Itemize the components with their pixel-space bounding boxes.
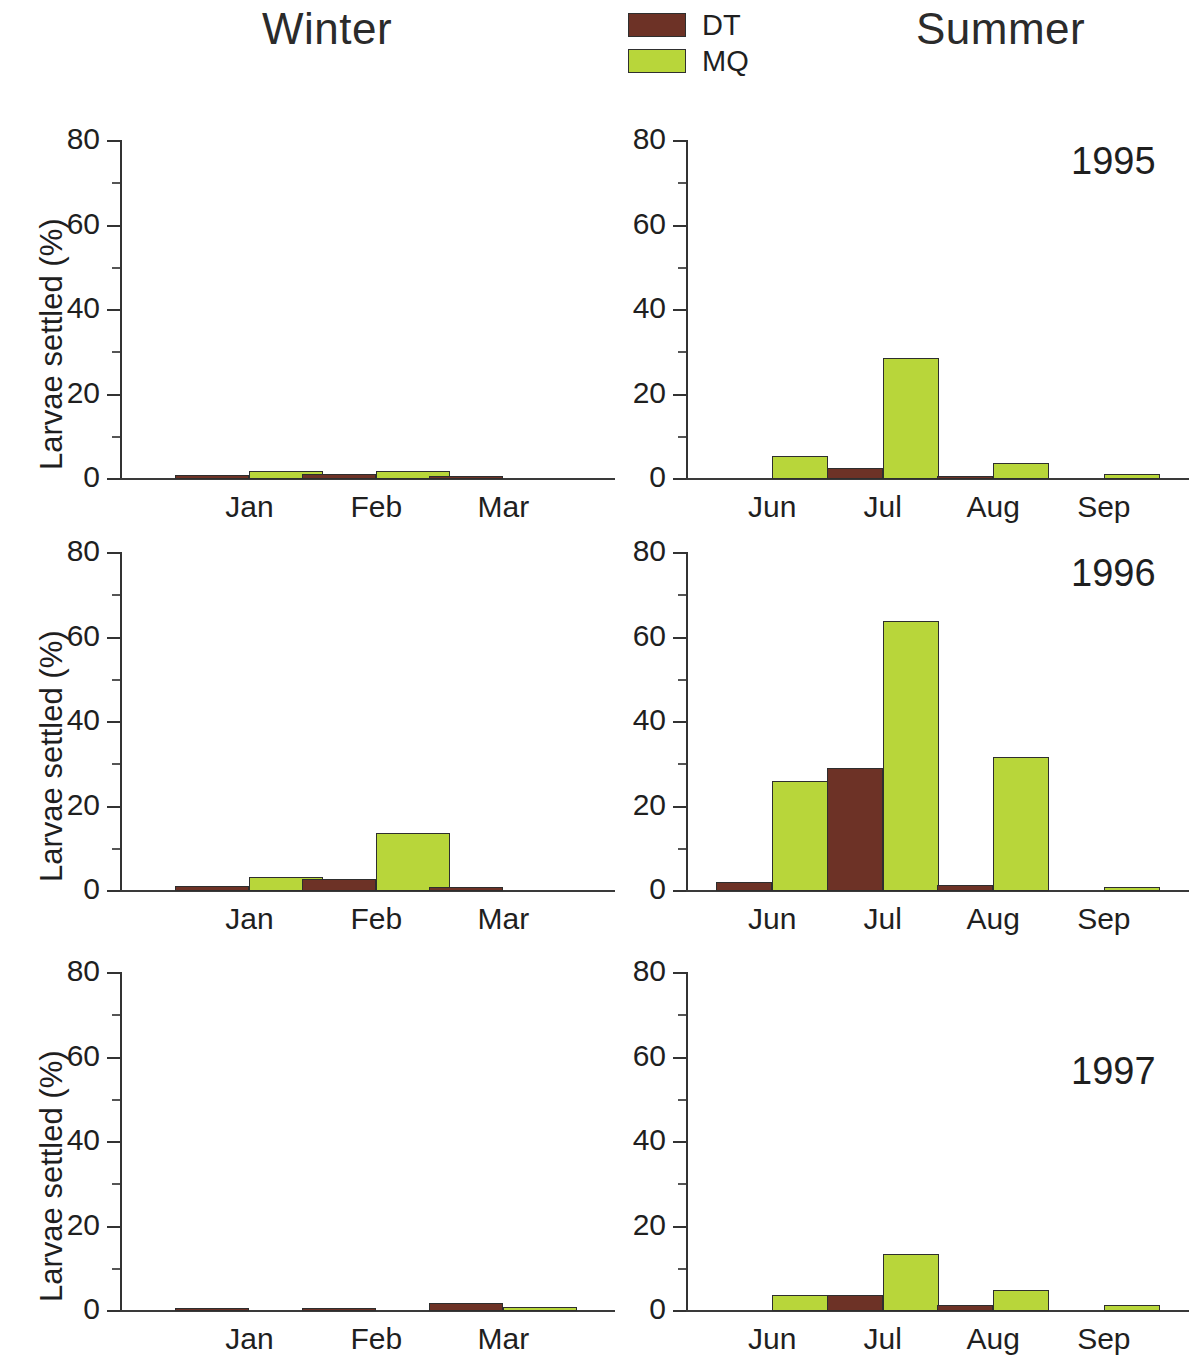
y-tick-minor-50 bbox=[112, 1099, 120, 1101]
panel-winter-1995: 020406080Larvae settled (%)JanFebMar bbox=[0, 100, 620, 512]
bar-dt-jan-1995 bbox=[175, 475, 249, 479]
y-tick-80 bbox=[107, 140, 120, 142]
y-tick-0 bbox=[107, 478, 120, 480]
bar-mq-aug-1997 bbox=[993, 1290, 1049, 1311]
y-tick-label-0: 0 bbox=[606, 1294, 666, 1324]
y-tick-minor-10 bbox=[678, 1268, 686, 1270]
bar-dt-mar-1997 bbox=[429, 1303, 503, 1311]
bar-dt-jun-1996 bbox=[716, 882, 772, 891]
bar-mq-sep-1997 bbox=[1104, 1305, 1160, 1311]
y-tick-80 bbox=[673, 140, 686, 142]
legend-item-dt: DT bbox=[628, 10, 798, 40]
bar-dt-jul-1996 bbox=[827, 768, 883, 891]
y-tick-0 bbox=[673, 1310, 686, 1312]
bar-dt-jan-1997 bbox=[175, 1308, 249, 1311]
y-tick-label-0: 0 bbox=[606, 462, 666, 492]
bar-mq-sep-1995 bbox=[1104, 474, 1160, 479]
bar-mq-aug-1996 bbox=[993, 757, 1049, 891]
figure-header: Winter Summer DT MQ bbox=[0, 0, 1189, 100]
y-tick-minor-30 bbox=[678, 1183, 686, 1185]
bar-dt-jan-1996 bbox=[175, 886, 249, 891]
y-tick-minor-70 bbox=[678, 182, 686, 184]
panel-summer-1997: 0204060801997JunJulAugSep bbox=[620, 912, 1189, 1366]
bar-mq-mar-1997 bbox=[503, 1307, 577, 1311]
bar-mq-jun-1995 bbox=[772, 456, 828, 479]
y-tick-40 bbox=[107, 721, 120, 723]
legend-swatch-dt bbox=[628, 13, 686, 37]
legend-label-mq: MQ bbox=[702, 47, 749, 76]
y-tick-minor-30 bbox=[678, 763, 686, 765]
bar-dt-jul-1997 bbox=[827, 1295, 883, 1311]
y-tick-0 bbox=[107, 1310, 120, 1312]
y-axis-label: Larvae settled (%) bbox=[34, 630, 70, 882]
legend-item-mq: MQ bbox=[628, 46, 798, 76]
legend-swatch-mq bbox=[628, 49, 686, 73]
y-tick-60 bbox=[673, 225, 686, 227]
y-tick-label-60: 60 bbox=[606, 1041, 666, 1071]
y-axis-label: Larvae settled (%) bbox=[34, 218, 70, 470]
y-tick-minor-30 bbox=[112, 1183, 120, 1185]
bar-dt-aug-1996 bbox=[937, 885, 993, 891]
y-tick-minor-70 bbox=[678, 594, 686, 596]
y-tick-0 bbox=[673, 478, 686, 480]
panel-winter-1997: 020406080Larvae settled (%)JanFebMar bbox=[0, 912, 620, 1366]
bar-dt-mar-1995 bbox=[429, 476, 503, 479]
y-tick-60 bbox=[107, 1057, 120, 1059]
y-tick-label-0: 0 bbox=[606, 874, 666, 904]
legend-label-dt: DT bbox=[702, 11, 741, 40]
bar-dt-mar-1996 bbox=[429, 887, 503, 891]
y-tick-label-60: 60 bbox=[606, 621, 666, 651]
y-tick-label-20: 20 bbox=[606, 790, 666, 820]
y-tick-80 bbox=[673, 552, 686, 554]
bar-dt-feb-1995 bbox=[302, 474, 376, 479]
y-tick-label-80: 80 bbox=[606, 124, 666, 154]
y-tick-minor-50 bbox=[112, 679, 120, 681]
y-tick-minor-30 bbox=[112, 763, 120, 765]
bar-dt-jul-1995 bbox=[827, 468, 883, 479]
y-tick-minor-10 bbox=[112, 848, 120, 850]
summer-column-title: Summer bbox=[916, 4, 1085, 54]
y-tick-20 bbox=[107, 394, 120, 396]
y-tick-60 bbox=[107, 225, 120, 227]
bar-mq-feb-1996 bbox=[376, 833, 450, 891]
y-tick-minor-10 bbox=[112, 436, 120, 438]
y-tick-60 bbox=[673, 1057, 686, 1059]
y-tick-minor-50 bbox=[678, 679, 686, 681]
y-tick-40 bbox=[107, 1141, 120, 1143]
y-tick-60 bbox=[673, 637, 686, 639]
y-tick-40 bbox=[107, 309, 120, 311]
y-tick-0 bbox=[673, 890, 686, 892]
y-tick-0 bbox=[107, 890, 120, 892]
y-tick-60 bbox=[107, 637, 120, 639]
y-tick-20 bbox=[673, 1226, 686, 1228]
y-tick-40 bbox=[673, 721, 686, 723]
y-tick-label-80: 80 bbox=[40, 124, 100, 154]
bar-mq-jun-1996 bbox=[772, 781, 828, 891]
year-label-1997: 1997 bbox=[1071, 1050, 1156, 1093]
x-tick-label-jan: Jan bbox=[179, 1324, 319, 1354]
bar-mq-jun-1997 bbox=[772, 1295, 828, 1311]
y-tick-minor-70 bbox=[678, 1014, 686, 1016]
y-tick-label-80: 80 bbox=[40, 956, 100, 986]
year-label-1996: 1996 bbox=[1071, 552, 1156, 595]
bar-dt-feb-1997 bbox=[302, 1308, 376, 1311]
bar-mq-jul-1995 bbox=[883, 358, 939, 479]
y-axis-line bbox=[120, 140, 122, 480]
y-tick-minor-30 bbox=[678, 351, 686, 353]
y-axis-line bbox=[120, 552, 122, 892]
y-tick-label-80: 80 bbox=[40, 536, 100, 566]
panel-summer-1996: 0204060801996JunJulAugSep bbox=[620, 512, 1189, 912]
y-tick-minor-50 bbox=[112, 267, 120, 269]
bar-mq-jul-1997 bbox=[883, 1254, 939, 1311]
y-tick-minor-30 bbox=[112, 351, 120, 353]
winter-column-title: Winter bbox=[262, 4, 392, 54]
y-axis-line bbox=[686, 552, 688, 892]
y-tick-minor-10 bbox=[678, 436, 686, 438]
y-axis-line bbox=[686, 140, 688, 480]
y-tick-label-20: 20 bbox=[606, 378, 666, 408]
y-axis-line bbox=[120, 972, 122, 1312]
y-tick-label-20: 20 bbox=[606, 1210, 666, 1240]
bar-dt-aug-1995 bbox=[937, 476, 993, 479]
bar-mq-sep-1996 bbox=[1104, 887, 1160, 891]
y-tick-label-60: 60 bbox=[606, 209, 666, 239]
